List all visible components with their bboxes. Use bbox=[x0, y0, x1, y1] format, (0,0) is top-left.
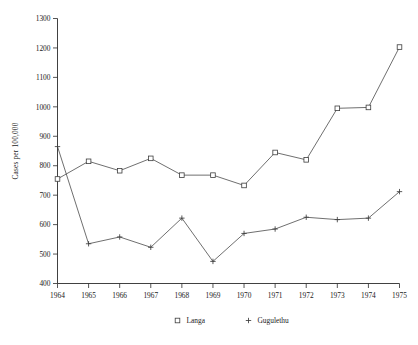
y-axis-tick-label: 400 bbox=[39, 279, 50, 288]
data-point-square-marker bbox=[55, 177, 60, 182]
data-point-square-marker bbox=[366, 105, 371, 110]
y-axis-tick-label: 900 bbox=[39, 132, 50, 141]
data-point-square-marker bbox=[335, 106, 340, 111]
data-point-square-marker bbox=[86, 159, 91, 164]
legend-square-marker bbox=[175, 318, 180, 323]
x-axis-tick-label: 1975 bbox=[392, 291, 407, 300]
x-axis-tick-label: 1967 bbox=[143, 291, 158, 300]
legend-label-gugulethu: Gugulethu bbox=[258, 316, 290, 325]
data-point-plus-marker bbox=[335, 217, 340, 222]
x-axis-tick-label: 1970 bbox=[237, 291, 252, 300]
data-point-square-marker bbox=[117, 168, 122, 173]
data-point-plus-marker bbox=[117, 234, 122, 239]
line-chart: 4005006007008009001000110012001300196419… bbox=[0, 0, 418, 345]
y-axis-tick-label: 800 bbox=[39, 161, 50, 170]
x-axis-tick-label: 1972 bbox=[299, 291, 314, 300]
x-axis-tick-label: 1966 bbox=[112, 291, 127, 300]
x-axis-tick-label: 1973 bbox=[330, 291, 345, 300]
legend-plus-marker bbox=[246, 318, 251, 323]
y-axis-tick-label: 1300 bbox=[36, 14, 51, 23]
series-gugulethu bbox=[55, 144, 402, 264]
y-axis-tick-label: 1100 bbox=[36, 73, 51, 82]
data-point-square-marker bbox=[148, 156, 153, 161]
data-point-square-marker bbox=[180, 173, 185, 178]
chart-legend: LangaGugulethu bbox=[175, 316, 289, 325]
y-axis-tick-label: 1000 bbox=[36, 103, 51, 112]
x-axis-tick-label: 1971 bbox=[268, 291, 283, 300]
x-axis-tick-label: 1969 bbox=[206, 291, 221, 300]
data-point-square-marker bbox=[242, 183, 247, 188]
y-axis-title: Cases per 100,000 bbox=[11, 122, 20, 179]
data-point-plus-marker bbox=[304, 215, 309, 220]
data-point-plus-marker bbox=[272, 226, 277, 231]
x-axis-tick-label: 1965 bbox=[81, 291, 96, 300]
data-point-plus-marker bbox=[55, 144, 60, 149]
data-point-square-marker bbox=[273, 150, 278, 155]
legend-label-langa: Langa bbox=[187, 316, 206, 325]
x-axis-tick-label: 1964 bbox=[50, 291, 65, 300]
data-point-square-marker bbox=[397, 45, 402, 50]
series-line-langa bbox=[58, 47, 400, 185]
series-line-gugulethu bbox=[58, 147, 400, 262]
x-axis-tick-label: 1974 bbox=[361, 291, 376, 300]
data-point-square-marker bbox=[211, 173, 216, 178]
x-axis-tick-label: 1968 bbox=[174, 291, 189, 300]
y-axis-tick-label: 1200 bbox=[36, 44, 51, 53]
y-axis-tick-label: 700 bbox=[39, 191, 50, 200]
series-langa bbox=[55, 45, 402, 188]
data-point-plus-marker bbox=[86, 241, 91, 246]
data-point-square-marker bbox=[304, 158, 309, 163]
chart-container: 4005006007008009001000110012001300196419… bbox=[0, 0, 418, 345]
y-axis-tick-label: 600 bbox=[39, 220, 50, 229]
y-axis-tick-label: 500 bbox=[39, 250, 50, 259]
